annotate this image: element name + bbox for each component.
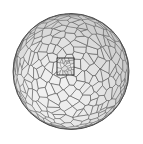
voronoi-sphere-figure: Spherical Voronoi Tessellation Shaded sp… xyxy=(0,0,143,144)
sphere-canvas xyxy=(0,0,143,144)
